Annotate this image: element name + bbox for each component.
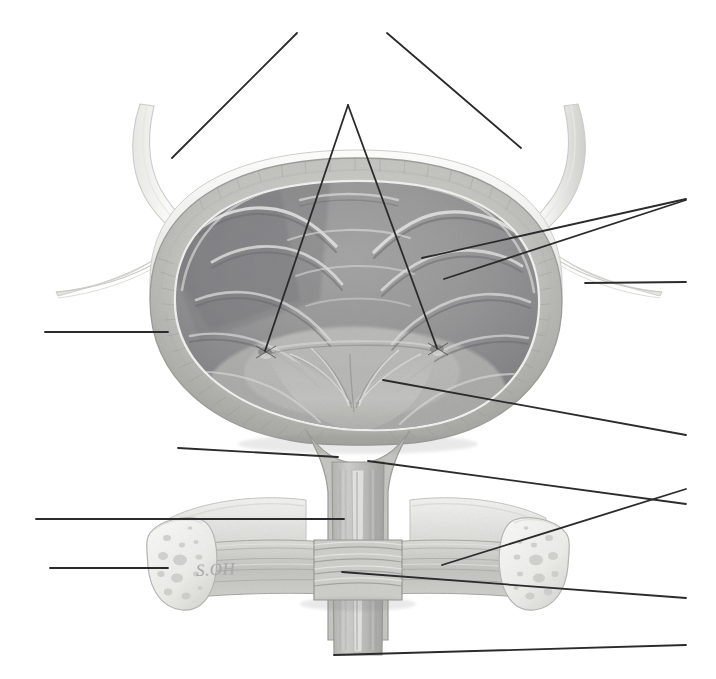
leader-right-peritoneum [585, 282, 686, 283]
bladder-illustration [0, 0, 716, 679]
artist-signature: S.OH [196, 559, 236, 581]
anatomy-plate: S.OH [0, 0, 716, 679]
